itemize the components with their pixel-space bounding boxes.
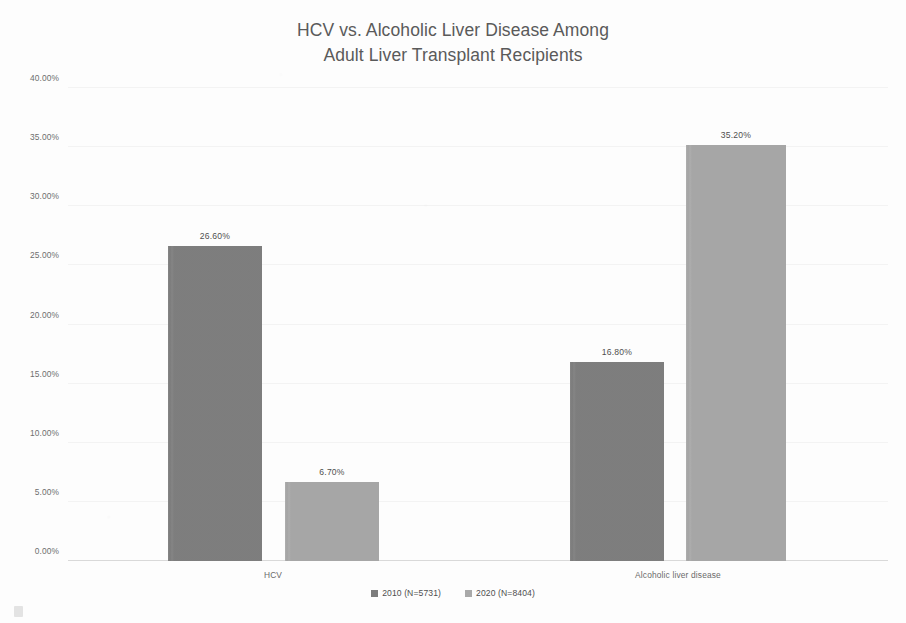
x-axis-category-hcv: HCV bbox=[264, 570, 282, 580]
y-axis-tick-20: 20.00% bbox=[30, 310, 59, 320]
x-axis-category-ald: Alcoholic liver disease bbox=[635, 570, 721, 580]
y-axis-tick-0: 0.00% bbox=[35, 546, 59, 556]
bar-ald-2010[interactable]: 16.80% bbox=[570, 362, 664, 561]
y-axis-tick-15: 15.00% bbox=[30, 369, 59, 379]
chart-legend: 2010 (N=5731) 2020 (N=8404) bbox=[0, 588, 906, 598]
bar-value-label: 6.70% bbox=[319, 467, 344, 477]
plot-area: 40.00% 35.00% 30.00% 25.00% 20.00% 15.00… bbox=[68, 88, 888, 561]
y-axis-tick-30: 30.00% bbox=[30, 191, 59, 201]
gridline-40 bbox=[68, 87, 888, 88]
chart-title-line-1: HCV vs. Alcoholic Liver Disease Among bbox=[0, 18, 906, 43]
bar-ald-2020[interactable]: 35.20% bbox=[686, 145, 786, 561]
legend-label: 2010 (N=5731) bbox=[382, 588, 441, 598]
bar-chart-figure: HCV vs. Alcoholic Liver Disease Among Ad… bbox=[0, 0, 906, 623]
y-axis-tick-25: 25.00% bbox=[30, 250, 59, 260]
y-axis-tick-5: 5.00% bbox=[35, 487, 59, 497]
y-axis-tick-40: 40.00% bbox=[30, 73, 59, 83]
bar-value-label: 16.80% bbox=[602, 347, 632, 357]
bar-value-label: 26.60% bbox=[200, 231, 230, 241]
scan-edge-artifact bbox=[14, 606, 23, 617]
chart-title: HCV vs. Alcoholic Liver Disease Among Ad… bbox=[0, 18, 906, 68]
bar-value-label: 35.20% bbox=[721, 130, 751, 140]
legend-swatch-icon bbox=[465, 590, 472, 597]
bar-hcv-2020[interactable]: 6.70% bbox=[285, 482, 379, 561]
y-axis-tick-10: 10.00% bbox=[30, 428, 59, 438]
legend-item-2010[interactable]: 2010 (N=5731) bbox=[371, 588, 441, 598]
legend-swatch-icon bbox=[371, 590, 378, 597]
bar-hcv-2010[interactable]: 26.60% bbox=[168, 246, 262, 561]
legend-label: 2020 (N=8404) bbox=[476, 588, 535, 598]
y-axis-tick-35: 35.00% bbox=[30, 132, 59, 142]
legend-item-2020[interactable]: 2020 (N=8404) bbox=[465, 588, 535, 598]
chart-title-line-2: Adult Liver Transplant Recipients bbox=[0, 43, 906, 68]
